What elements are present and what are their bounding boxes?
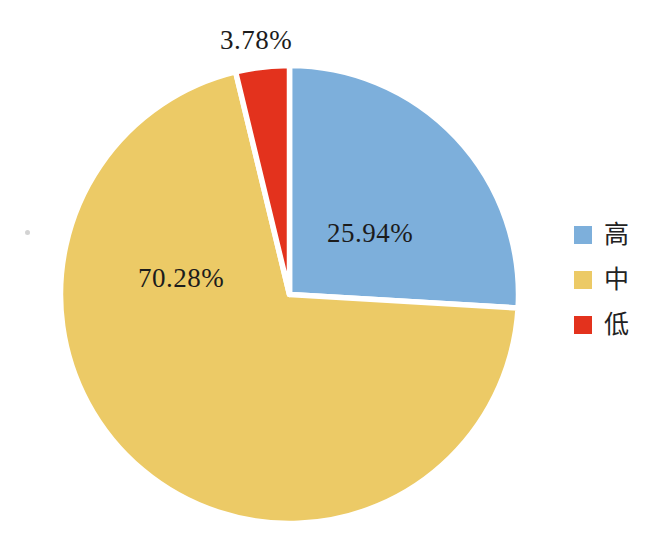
legend-label-medium: 中 [604,270,629,289]
slice-label-high: 25.94% [327,218,413,249]
legend-swatch-medium-icon [574,271,592,289]
legend-label-low: 低 [604,315,629,334]
legend-item-medium: 中 [574,270,629,289]
slice-label-medium: 70.28% [138,263,224,294]
legend: 高 中 低 [574,225,629,334]
pie-chart-figure: 25.94% 70.28% 3.78% 高 中 低 [0,0,667,537]
slice-label-low: 3.78% [220,25,292,56]
legend-swatch-high-icon [574,226,592,244]
legend-label-high: 高 [604,225,629,244]
pie-chart [0,0,667,537]
legend-item-low: 低 [574,315,629,334]
pie-slice-high [290,66,519,309]
legend-swatch-low-icon [574,316,592,334]
pie-slices [60,66,518,524]
scan-artifact-dot [25,230,30,235]
legend-item-high: 高 [574,225,629,244]
